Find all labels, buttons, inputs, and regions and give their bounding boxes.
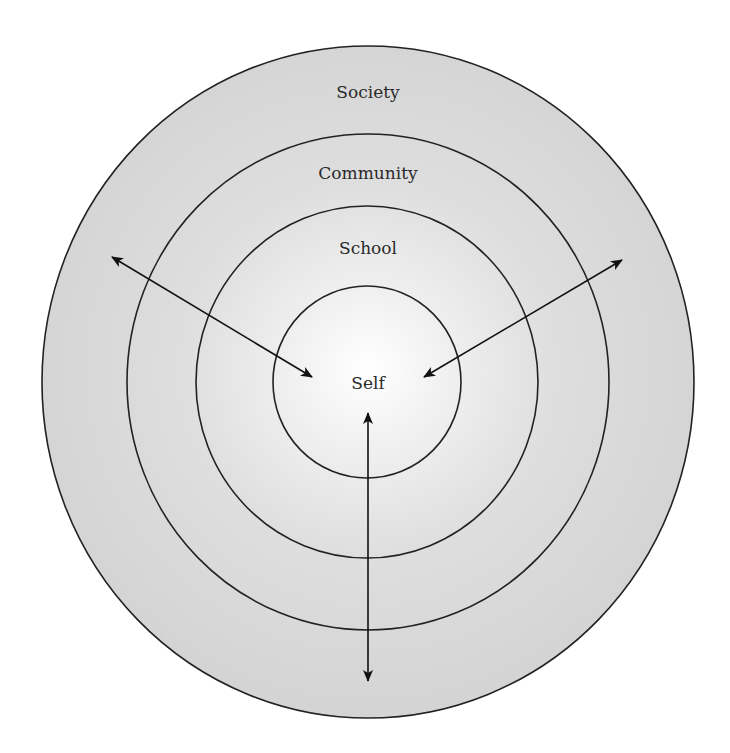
label-self: Self [351, 373, 386, 393]
label-school: School [339, 238, 397, 258]
concentric-circles-diagram: Society Community School Self [0, 0, 730, 753]
label-society: Society [336, 82, 400, 102]
label-community: Community [318, 163, 418, 183]
